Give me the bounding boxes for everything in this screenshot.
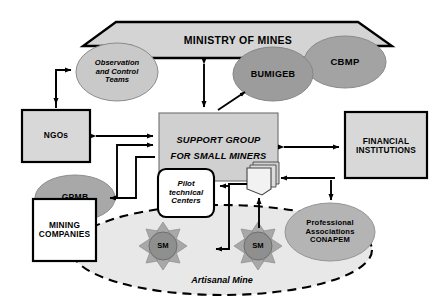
observation-teams-node: [76, 43, 158, 101]
cbmp-node: [304, 36, 386, 88]
edge-gpmb-support: [117, 145, 153, 199]
mining-companies-node: [33, 199, 96, 261]
edge-support-bumigeb: [218, 92, 245, 110]
edge-observation-in: [56, 70, 71, 108]
sm-node-right: [234, 222, 282, 270]
ngos-node: [22, 110, 90, 162]
financial-institutions-node: [345, 112, 427, 178]
pilot-technical-centers-node: [158, 169, 214, 217]
diagram-canvas: MINISTRY OF MINES Observation and Contro…: [0, 0, 444, 303]
professional-associations-node: [285, 203, 375, 261]
sm-node-left: [139, 222, 187, 270]
document-stack-icon: [247, 162, 279, 195]
diagram-svg: [0, 0, 444, 303]
